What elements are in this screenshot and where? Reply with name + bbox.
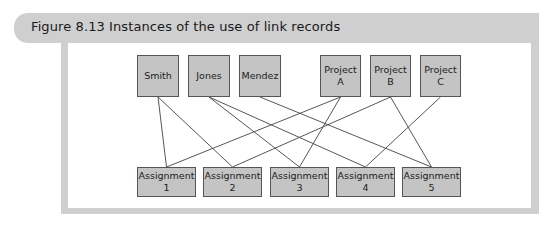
node-label: Mendez (242, 70, 279, 82)
node-jones: Jones (188, 55, 230, 97)
node-label: Jones (196, 70, 221, 82)
node-a4: Assignment 4 (336, 167, 395, 197)
link-projA-a1 (167, 97, 341, 167)
node-projC: Project C (420, 55, 461, 97)
node-smith: Smith (137, 55, 179, 97)
link-projB-a2 (233, 97, 391, 167)
link-jones-a4 (209, 97, 366, 167)
link-projB-a5 (391, 97, 432, 167)
link-smith-a2 (158, 97, 233, 167)
link-smith-a1 (158, 97, 167, 167)
node-label: Project B (374, 64, 407, 88)
link-projA-a3 (300, 97, 341, 167)
node-projA: Project A (320, 55, 361, 97)
node-label: Assignment 4 (338, 170, 394, 194)
node-projB: Project B (370, 55, 411, 97)
node-label: Assignment 2 (205, 170, 261, 194)
node-a3: Assignment 3 (270, 167, 329, 197)
node-label: Assignment 1 (139, 170, 195, 194)
node-a2: Assignment 2 (203, 167, 262, 197)
node-label: Assignment 3 (272, 170, 328, 194)
node-label: Project C (424, 64, 457, 88)
node-label: Assignment 5 (404, 170, 460, 194)
node-label: Project A (324, 64, 357, 88)
node-a1: Assignment 1 (137, 167, 196, 197)
node-a5: Assignment 5 (402, 167, 461, 197)
node-label: Smith (144, 70, 172, 82)
node-mendez: Mendez (239, 55, 281, 97)
link-projC-a4 (366, 97, 441, 167)
